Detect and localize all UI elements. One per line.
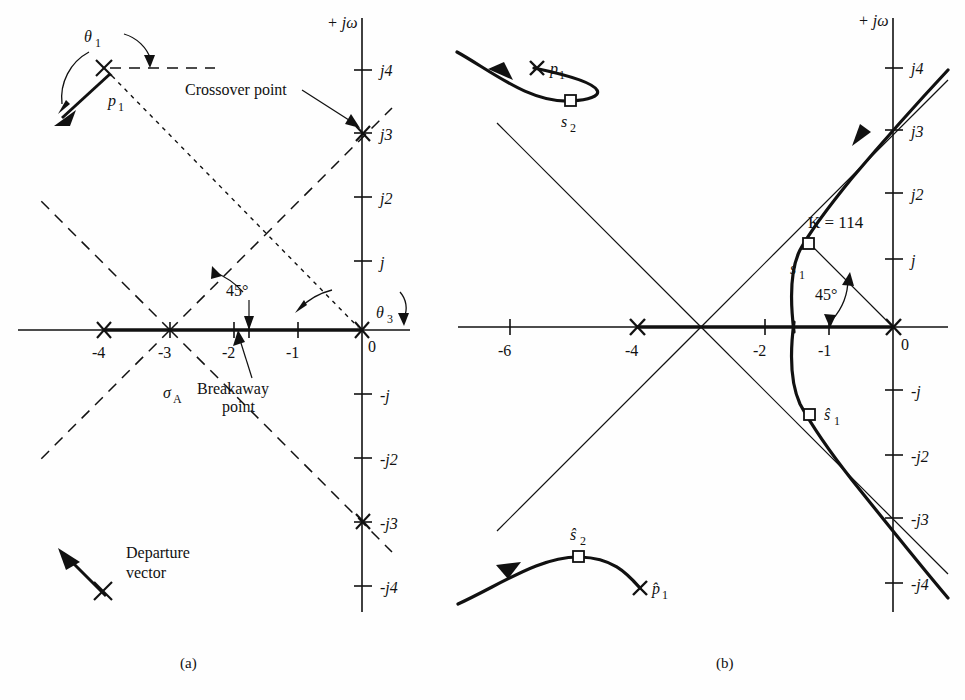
panel-a-legend-label-2: vector bbox=[126, 564, 167, 581]
panel-b-asymptote-upper-left bbox=[497, 123, 701, 327]
panel-a-crossover-leader-arrowhead bbox=[345, 114, 360, 128]
panel-a-pole-p1-label: p 1 bbox=[107, 92, 124, 114]
svg-text:ŝ: ŝ bbox=[570, 526, 577, 543]
panel-b-locus-branch-upper-left bbox=[457, 52, 598, 101]
panel-a-theta1-label: θ 1 bbox=[84, 28, 101, 50]
svg-text:θ: θ bbox=[376, 304, 384, 321]
panel-b-s2hat-label: ŝ 2 bbox=[570, 526, 586, 548]
panel-b-tick-mj4-label: -j4 bbox=[911, 576, 929, 594]
panel-a-tick-mj3-label: -j3 bbox=[380, 515, 398, 533]
panel-b-locus-arrow-lower-left bbox=[496, 562, 521, 579]
panel-b-45-label: 45° bbox=[815, 286, 837, 303]
panel-b-locus-branch-lower-left bbox=[458, 557, 640, 604]
svg-text:A: A bbox=[173, 392, 182, 406]
panel-b-imaginary-axis-label: + jω bbox=[858, 12, 889, 30]
panel-b-asymptote-lower-left bbox=[497, 327, 701, 531]
panel-b-45-arrowhead-top bbox=[842, 272, 854, 286]
panel-a-45-label: 45° bbox=[226, 282, 248, 299]
svg-text:1: 1 bbox=[799, 268, 805, 282]
panel-a-tick-j4-label: j4 bbox=[378, 62, 392, 80]
panel-a-imaginary-axis-label: + jω bbox=[327, 14, 358, 32]
panel-b-tick-j4-label: j4 bbox=[909, 60, 923, 78]
panel-b-tick-m4-label: -4 bbox=[625, 342, 638, 359]
svg-text:p: p bbox=[549, 60, 558, 78]
panel-b-caption: (b) bbox=[716, 655, 734, 672]
svg-text:1: 1 bbox=[95, 36, 101, 50]
svg-text:σ: σ bbox=[163, 384, 172, 401]
panel-a-legend-departure-glyph bbox=[58, 548, 112, 600]
panel-a-tick-m4-label: -4 bbox=[92, 344, 105, 361]
panel-b-s2hat-marker bbox=[573, 551, 584, 562]
panel-b: + jω j4 j3 j2 j 0 -j -j2 -j3 -j4 -6 -4 -… bbox=[457, 12, 948, 672]
panel-b-s1hat-label: ŝ 1 bbox=[824, 406, 840, 428]
panel-b-gain-label: K = 114 bbox=[808, 213, 864, 232]
panel-a-theta3-leader-arrowhead bbox=[398, 313, 409, 326]
panel-a-tick-mj4-label: -j4 bbox=[380, 579, 398, 597]
panel-a-theta3-label: θ 3 bbox=[376, 304, 393, 326]
svg-text:s: s bbox=[790, 260, 796, 277]
panel-a-tick-0-label: 0 bbox=[368, 338, 376, 355]
panel-b-tick-m6-label: -6 bbox=[498, 342, 511, 359]
panel-a-breakaway-label-2: point bbox=[222, 398, 255, 416]
panel-a-45-arrowhead bbox=[211, 266, 222, 279]
svg-text:1: 1 bbox=[559, 68, 565, 82]
panel-b-s2-label: s 2 bbox=[561, 113, 576, 135]
svg-text:θ: θ bbox=[84, 28, 92, 45]
panel-b-tick-j2-label: j2 bbox=[909, 186, 923, 204]
svg-text:1: 1 bbox=[834, 414, 840, 428]
panel-a-caption: (a) bbox=[180, 655, 197, 672]
panel-a-tick-m2-label: -2 bbox=[222, 344, 235, 361]
panel-a-tick-j3-label: j3 bbox=[378, 126, 392, 144]
panel-a-tick-m3-label: -3 bbox=[158, 344, 171, 361]
svg-text:p̂: p̂ bbox=[651, 580, 660, 598]
panel-b-tick-mj3-label: -j3 bbox=[911, 511, 929, 529]
figure-root: + jω j4 j3 j2 j 0 -j -j2 -j3 -j4 -4 -3 -… bbox=[0, 0, 965, 700]
panel-a-crossover-leader bbox=[302, 90, 352, 122]
panel-b-pole-p1hat-label: p̂ 1 bbox=[651, 580, 668, 602]
panel-a-tick-j2-label: j2 bbox=[378, 190, 392, 208]
panel-a-theta1-leader-arrowhead bbox=[144, 55, 155, 68]
panel-a-theta3-arrowhead bbox=[295, 300, 307, 313]
svg-text:s: s bbox=[561, 113, 567, 130]
panel-b-s2-marker bbox=[565, 95, 576, 106]
panel-b-tick-j3-label: j3 bbox=[909, 123, 923, 141]
panel-a-sigma-a-label: σ A bbox=[163, 384, 182, 406]
root-locus-figure: + jω j4 j3 j2 j 0 -j -j2 -j3 -j4 -4 -3 -… bbox=[0, 0, 965, 700]
panel-b-pole-p1-label: p 1 bbox=[549, 60, 565, 82]
svg-text:3: 3 bbox=[387, 312, 393, 326]
svg-text:1: 1 bbox=[662, 588, 668, 602]
panel-a-departure-vector bbox=[54, 74, 110, 126]
panel-b-s1hat-marker bbox=[804, 409, 815, 420]
panel-b-tick-m1-label: -1 bbox=[818, 342, 831, 359]
panel-b-tick-mj1-label: -j bbox=[911, 383, 921, 401]
panel-a-asymptote-lower-right bbox=[170, 330, 392, 552]
panel-a-tick-j1-label: j bbox=[378, 254, 385, 272]
panel-b-locus-arrow-upper-right bbox=[852, 124, 871, 146]
panel-a: + jω j4 j3 j2 j 0 -j -j2 -j3 -j4 -4 -3 -… bbox=[18, 14, 410, 672]
panel-a-asymptote-upper-right bbox=[170, 108, 392, 330]
svg-text:2: 2 bbox=[570, 121, 576, 135]
panel-a-tick-mj1-label: -j bbox=[380, 387, 390, 405]
panel-a-asymptote-upper-left bbox=[40, 200, 170, 330]
panel-a-breakaway-leader bbox=[240, 340, 252, 378]
svg-text:1: 1 bbox=[118, 100, 124, 114]
svg-text:p: p bbox=[107, 92, 116, 110]
panel-b-tick-m2-label: -2 bbox=[753, 342, 766, 359]
svg-text:ŝ: ŝ bbox=[824, 406, 831, 423]
panel-a-tick-mj2-label: -j2 bbox=[380, 451, 398, 469]
panel-b-s1-marker bbox=[803, 238, 814, 249]
panel-b-tick-mj2-label: -j2 bbox=[911, 448, 929, 466]
panel-a-breakaway-label-1: Breakaway bbox=[197, 380, 269, 398]
panel-a-crossover-label: Crossover point bbox=[185, 81, 287, 99]
panel-a-tick-m1-label: -1 bbox=[286, 344, 299, 361]
panel-b-tick-j1-label: j bbox=[909, 252, 916, 270]
panel-b-tick-0-label: 0 bbox=[901, 336, 909, 353]
panel-a-legend-label-1: Departure bbox=[126, 544, 190, 562]
svg-text:2: 2 bbox=[580, 534, 586, 548]
